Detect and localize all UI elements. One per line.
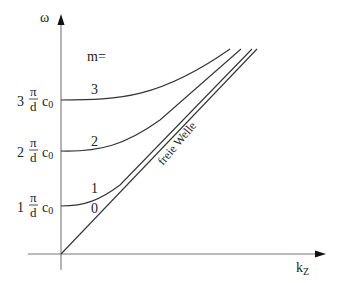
mode-label-2: 2 bbox=[91, 134, 98, 149]
mode-label-3: 3 bbox=[91, 82, 98, 97]
svg-text:d: d bbox=[30, 150, 37, 165]
svg-text:3: 3 bbox=[17, 94, 24, 109]
svg-text:c0: c0 bbox=[42, 145, 53, 161]
mode-label-0: 0 bbox=[91, 201, 98, 216]
x-axis-arrow-icon bbox=[315, 251, 326, 258]
level-label-2: 2 π d c0 bbox=[17, 135, 53, 165]
x-axis-label: kZ bbox=[296, 260, 309, 277]
svg-text:π: π bbox=[30, 190, 37, 205]
level-label-1: 1 π d c0 bbox=[17, 190, 53, 220]
svg-text:d: d bbox=[30, 205, 37, 220]
svg-text:π: π bbox=[30, 84, 37, 99]
svg-text:d: d bbox=[30, 99, 37, 114]
level-label-3: 3 π d c0 bbox=[17, 84, 53, 114]
curve-m1 bbox=[61, 49, 252, 206]
svg-text:π: π bbox=[30, 135, 37, 150]
svg-text:c0: c0 bbox=[42, 200, 53, 216]
mode-label-1: 1 bbox=[91, 181, 98, 196]
svg-text:c0: c0 bbox=[42, 94, 53, 110]
mode-header: m= bbox=[87, 49, 106, 64]
svg-text:2: 2 bbox=[17, 145, 24, 160]
y-axis-label: ω bbox=[40, 10, 49, 25]
y-axis-arrow-icon bbox=[58, 14, 65, 25]
dispersion-diagram: ω kZ m= 3 2 1 0 freie Welle 3 π d c0 2 π… bbox=[0, 0, 339, 283]
svg-text:1: 1 bbox=[17, 200, 24, 215]
